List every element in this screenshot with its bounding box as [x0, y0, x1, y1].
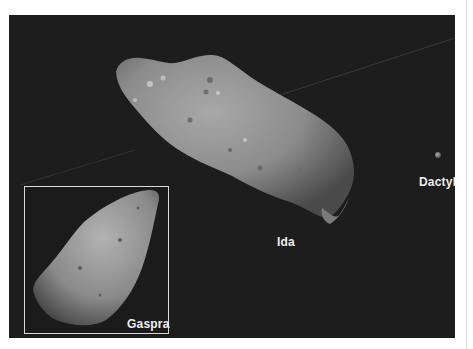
streak-line — [280, 38, 455, 95]
gaspra-inset-frame — [24, 186, 169, 334]
streak-line — [20, 150, 135, 185]
label-ida: Ida — [277, 236, 295, 248]
label-gaspra: Gaspra — [127, 318, 170, 330]
asteroid-photo: Ida Dactyl Gaspra — [9, 15, 455, 338]
dactyl-moon — [435, 152, 441, 158]
label-dactyl: Dactyl — [419, 176, 455, 188]
page-edge-rule — [466, 0, 467, 349]
